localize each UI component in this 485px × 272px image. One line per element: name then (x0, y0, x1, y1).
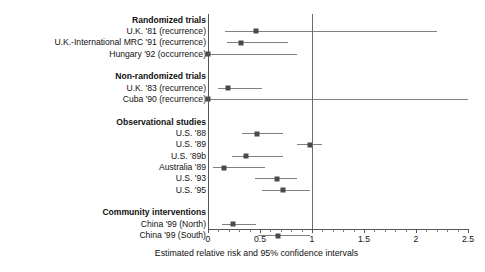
x-axis-tick-minor (374, 229, 375, 232)
x-axis-tick-minor (250, 229, 251, 232)
x-axis-tick-major (312, 229, 313, 233)
row-label: U.S. '88 (176, 128, 206, 138)
x-axis-tick-minor (406, 229, 407, 232)
x-axis-tick-label: 2 (414, 234, 419, 244)
x-axis-tick-minor (354, 229, 355, 232)
group-header: Randomized trials (132, 15, 206, 25)
x-axis-tick-minor (239, 229, 240, 232)
point-estimate-marker (275, 233, 280, 238)
row-label: U.K.-International MRC '91 (recurrence) (54, 37, 206, 47)
point-estimate-marker (280, 188, 285, 193)
point-estimate-marker (230, 222, 235, 227)
confidence-interval-line (227, 42, 288, 43)
x-axis-tick-minor (437, 229, 438, 232)
row-label: Australia '89 (159, 162, 206, 172)
x-axis-tick-minor (333, 229, 334, 232)
confidence-interval-line (232, 156, 283, 157)
x-axis-tick-major (468, 229, 469, 233)
point-estimate-marker (254, 131, 259, 136)
x-axis-tick-label: 0 (206, 234, 211, 244)
row-label: Cuba '90 (recurrence) (123, 94, 206, 104)
row-label: U.K. '81 (recurrence) (127, 26, 207, 36)
row-label: U.K. '83 (recurrence) (127, 83, 207, 93)
row-label: U.S. '89b (171, 151, 206, 161)
x-axis-tick-minor (385, 229, 386, 232)
confidence-interval-line (208, 99, 468, 100)
x-axis-tick-major (364, 229, 365, 233)
x-axis-tick-minor (270, 229, 271, 232)
x-axis-tick-label: 0.5 (254, 234, 266, 244)
point-estimate-marker (253, 29, 258, 34)
x-axis-tick-minor (322, 229, 323, 232)
row-label: U.S. '93 (176, 173, 206, 183)
row-label: China '99 (South) (139, 230, 206, 240)
row-label: U.S. '95 (176, 185, 206, 195)
reference-line-null-effect (312, 14, 313, 229)
row-label: China '99 (North) (141, 219, 206, 229)
x-axis-tick-minor (229, 229, 230, 232)
x-axis-tick-label: 1.5 (358, 234, 370, 244)
x-axis-tick-minor (426, 229, 427, 232)
group-header: Non-randomized trials (115, 71, 206, 81)
y-axis-line (208, 14, 209, 229)
point-estimate-marker (239, 40, 244, 45)
x-axis-tick-minor (281, 229, 282, 232)
point-estimate-marker (221, 165, 226, 170)
group-header: Community interventions (102, 207, 206, 217)
x-axis-tick-major (208, 229, 209, 233)
x-axis-tick-label: 2.5 (462, 234, 474, 244)
x-axis-tick-minor (343, 229, 344, 232)
x-axis-title-text: Estimated relative risk and 95% confiden… (155, 248, 358, 258)
x-axis-tick-major (260, 229, 261, 233)
x-axis-tick-minor (291, 229, 292, 232)
x-axis-tick-label: 1 (310, 234, 315, 244)
x-axis-tick-minor (218, 229, 219, 232)
x-axis-tick-minor (447, 229, 448, 232)
x-axis-title: Estimated relative risk and 95% confiden… (0, 248, 485, 258)
x-axis-tick-major (416, 229, 417, 233)
confidence-interval-line (222, 224, 256, 225)
point-estimate-marker (274, 176, 279, 181)
x-axis-line (208, 229, 468, 230)
confidence-interval-line (208, 54, 297, 55)
forest-plot: Randomized trialsU.K. '81 (recurrence)U.… (0, 0, 485, 272)
group-header: Observational studies (116, 117, 206, 127)
row-label: Hungary '92 (occurrence) (109, 49, 206, 59)
row-label: U.S. '89 (176, 139, 206, 149)
x-axis-tick-minor (458, 229, 459, 232)
point-estimate-marker (244, 154, 249, 159)
x-axis-tick-minor (302, 229, 303, 232)
confidence-interval-line (262, 190, 310, 191)
confidence-interval-line (242, 133, 283, 134)
x-axis-tick-minor (395, 229, 396, 232)
point-estimate-marker (225, 86, 230, 91)
